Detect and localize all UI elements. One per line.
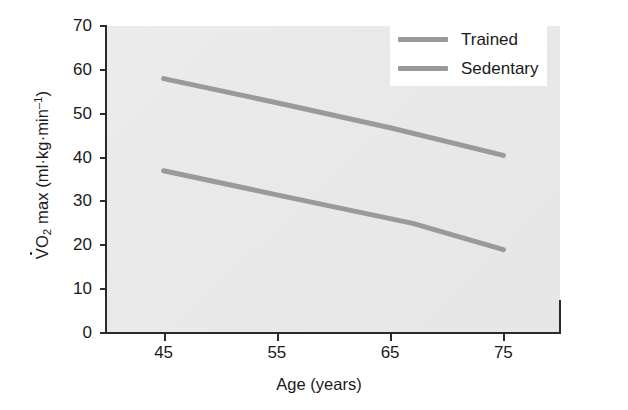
legend-item: Sedentary bbox=[398, 57, 539, 79]
x-axis-tick-mark bbox=[164, 333, 166, 341]
x-axis-tick-marks bbox=[0, 333, 628, 343]
x-axis-title-text: Age (years) bbox=[276, 375, 361, 394]
x-axis-tick-label: 55 bbox=[252, 344, 302, 361]
legend-item: Trained bbox=[398, 28, 539, 50]
chart-figure: VO2 max (ml·kg·min–1) 010203040506070 Tr… bbox=[0, 0, 628, 410]
legend-label: Sedentary bbox=[461, 60, 539, 77]
legend-color-swatch bbox=[398, 66, 448, 71]
x-axis-tick-label: 45 bbox=[139, 344, 189, 361]
x-axis-tick-mark bbox=[277, 333, 279, 341]
legend-label: Trained bbox=[461, 31, 518, 48]
x-axis-tick-mark bbox=[503, 333, 505, 341]
legend: TrainedSedentary bbox=[390, 22, 547, 86]
series-line bbox=[164, 79, 504, 156]
x-axis-tick-label: 65 bbox=[365, 344, 415, 361]
legend-color-swatch bbox=[398, 37, 448, 42]
x-axis-tick-mark bbox=[390, 333, 392, 341]
x-axis-tick-labels: 45556575 bbox=[0, 344, 628, 368]
x-axis-title: Age (years) bbox=[0, 375, 628, 394]
series-line bbox=[164, 171, 504, 250]
x-axis-tick-label: 75 bbox=[478, 344, 528, 361]
